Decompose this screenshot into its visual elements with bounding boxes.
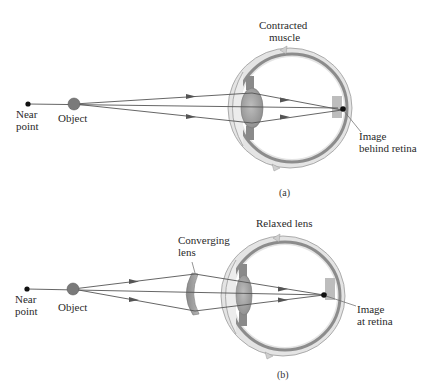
near-point-label: point [15,305,38,317]
object-marker [68,98,80,110]
panel-b-caption: (b) [277,369,289,381]
arrow-icon [129,297,139,302]
arrow-icon [129,279,139,284]
converging-lens-label: Converging [178,234,230,246]
ray-upper [74,93,252,104]
near-point-label: point [16,120,39,132]
muscle-label: Contracted [259,19,308,31]
muscle-label: muscle [269,31,300,43]
panel-a: Near point Object Contracted muscle Imag… [16,19,417,199]
optic-region [332,96,342,118]
image-point-marker [321,292,327,298]
converging-lens [186,273,199,315]
object-label: Object [58,301,87,313]
panel-a-caption: (a) [279,187,290,199]
object-label: Object [58,112,87,124]
converging-lens-label: lens [178,246,196,258]
panel-b: Near point Object Converging lens Relaxe… [15,217,393,381]
near-point-label: Near [15,293,37,305]
converging-lens-pointer [192,262,195,273]
optic-region [325,278,335,300]
image-label: Image [359,130,387,142]
image-label: Image [357,303,385,315]
relaxed-lens-label: Relaxed lens [256,217,313,229]
arrow-icon [186,94,196,99]
eye-diagram: Near point Object Contracted muscle Imag… [0,0,435,388]
near-point-marker [25,101,30,106]
image-label: behind retina [359,142,417,154]
near-point-marker [24,286,29,291]
near-point-label: Near [16,108,38,120]
image-label: at retina [357,315,393,327]
object-marker [67,283,79,295]
image-point-marker [340,106,346,112]
